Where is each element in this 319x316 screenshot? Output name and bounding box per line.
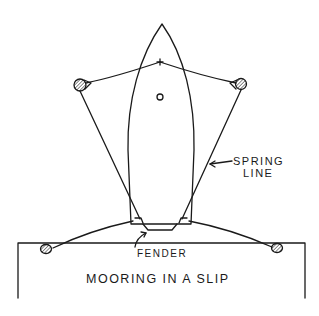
bow-line-left xyxy=(86,62,160,83)
boat-hull xyxy=(128,24,194,224)
spring-line-left-cleat xyxy=(135,218,143,223)
mast-circle xyxy=(157,94,163,100)
cleat-dock-right xyxy=(272,244,283,253)
spring-line-right-cleat xyxy=(179,218,187,223)
spring-line-left xyxy=(80,91,140,219)
mooring-diagram: SPRING LINE FENDER MOORING IN A SLIP xyxy=(0,0,319,316)
piling-top-right xyxy=(230,79,247,90)
spring-label-line2: LINE xyxy=(243,167,273,179)
piling-top-left xyxy=(74,79,91,91)
cleat-dock-left xyxy=(41,245,52,254)
fender-label: FENDER xyxy=(137,248,187,259)
diagram-title: MOORING IN A SLIP xyxy=(86,272,230,286)
spring-label-line1: SPRING xyxy=(233,155,284,167)
fender xyxy=(143,224,177,230)
bow-line-right xyxy=(160,62,236,83)
stern-line-left xyxy=(53,221,133,248)
